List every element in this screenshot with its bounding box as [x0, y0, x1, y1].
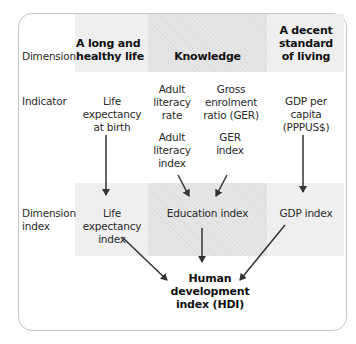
- flow-arrows: [0, 0, 356, 344]
- arrow-life-index-to-hdi: [122, 237, 167, 280]
- arrow-gdp-index-to-hdi: [240, 225, 285, 280]
- arrow-literacy-to-education: [178, 175, 189, 196]
- arrow-ger-to-education: [216, 175, 227, 196]
